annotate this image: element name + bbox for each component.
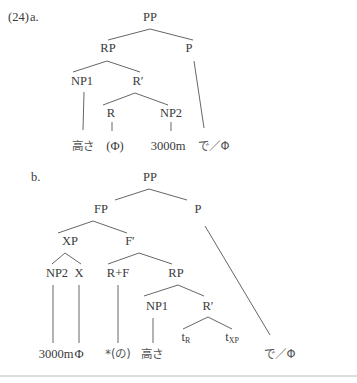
edge-b-fbar-rp [139, 253, 172, 264]
edge-a-np1-leaf [83, 92, 84, 130]
node-a-np2: NP2 [160, 106, 182, 120]
node-b-pp: PP [143, 170, 157, 184]
edge-b-fp-fbar [93, 221, 127, 233]
edge-b-rbar-tr [183, 317, 208, 329]
node-a-rbar: R′ [132, 74, 143, 88]
syntax-tree-figure: (24) a. PP RP P NP1 R′ R NP2 高さ (Φ) 3000… [0, 0, 357, 383]
edge-b-xp-x [65, 253, 81, 264]
edge-a-pp-p [150, 29, 193, 40]
node-b-fp: FP [94, 202, 108, 216]
edge-b-rp-np1 [144, 285, 178, 296]
node-a-np1: NP1 [71, 74, 93, 88]
trace-r: tR [182, 330, 191, 345]
edge-a-rp-np1 [73, 61, 107, 72]
trace-xp: tXP [225, 330, 239, 345]
example-number: (24) [8, 10, 29, 24]
node-a-rp: RP [100, 41, 115, 55]
edge-a-pp-rp [108, 29, 150, 40]
leaf-a-phi: (Φ) [106, 139, 123, 153]
edge-b-fbar-rf [108, 253, 139, 264]
leaf-a-de-phi: で／Φ [198, 139, 229, 153]
node-b-rf: R+F [107, 266, 129, 280]
tree-b: b. PP FP P XP F′ NP2 X R+F RP NP1 R′ tR … [31, 170, 296, 361]
node-b-xp: XP [62, 234, 78, 248]
node-b-fbar: F′ [125, 234, 135, 248]
edge-b-pp-p [149, 189, 187, 200]
leaf-a-3000m: 3000m [151, 139, 186, 153]
tree-b-label: b. [31, 170, 40, 184]
leaf-b-de-phi: で／Φ [264, 347, 295, 361]
tree-a-label: a. [30, 10, 39, 24]
node-b-rp: RP [168, 266, 183, 280]
node-b-x: X [74, 266, 83, 280]
edge-b-rp-rbar [178, 285, 204, 296]
edge-b-xp-np2 [52, 253, 65, 264]
node-a-pp: PP [143, 10, 157, 24]
leaf-b-3000m: 3000m [39, 347, 74, 361]
edge-a-rbar-r [103, 93, 135, 105]
edge-b-fp-xp [58, 221, 93, 233]
leaf-b-takasa: 高さ [141, 347, 163, 361]
edge-a-rp-rbar [107, 61, 140, 72]
leaf-b-no: *(の) [105, 347, 131, 361]
node-a-r: R [107, 106, 116, 120]
edge-a-p-leaf [194, 61, 204, 128]
edge-b-p-leaf [205, 226, 270, 335]
tree-a: (24) a. PP RP P NP1 R′ R NP2 高さ (Φ) 3000… [8, 10, 230, 153]
edge-b-rbar-txp [208, 317, 232, 329]
node-b-p: P [195, 202, 202, 216]
node-a-p: P [186, 41, 193, 55]
node-b-rbar: R′ [202, 299, 213, 313]
node-b-np2: NP2 [46, 266, 68, 280]
leaf-a-takasa: 高さ [72, 139, 94, 153]
edge-a-rbar-np2 [135, 93, 168, 105]
edge-b-pp-fp [115, 189, 149, 200]
leaf-b-phi: Φ [74, 347, 83, 361]
node-b-np1: NP1 [146, 299, 168, 313]
